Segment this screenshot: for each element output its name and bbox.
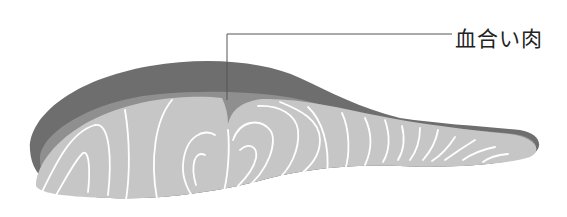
label-dark-meat: 血合い肉 <box>455 22 543 52</box>
